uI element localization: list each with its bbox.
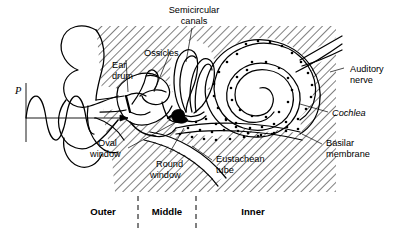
basilar-membrane-label-line2: membrane [326,149,370,159]
ear-anatomy-figure: P [0,0,403,236]
auditory-nerve-label-line1: Auditory [350,64,384,74]
round-window-label-line1: Round [156,159,183,169]
round-window-label-line2: window [149,170,181,180]
ear-drum-label-line1: Ear [112,60,126,70]
region-label-outer: Outer [90,206,116,217]
oval-window-label-line1: Oval [98,138,117,148]
region-label-inner: Inner [241,206,265,217]
eustachean-tube-label-line1: Eustachean [216,154,265,164]
region-label-middle: Middle [152,206,182,217]
basilar-membrane-label-line1: Basilar [326,138,354,148]
semicircular-canals-label-line1: Semicircular [169,5,220,15]
eustachean-tube-label-line2: tube [216,165,234,175]
semicircular-canals-label-line2: canals [181,16,208,26]
cochlea-label: Cochlea [332,108,366,118]
pressure-symbol-label: P [14,85,22,96]
ear-diagram-canvas: P [0,0,403,236]
auditory-nerve-label-line2: nerve [350,75,373,85]
oval-window-label-line2: window [89,149,121,159]
ossicles-label: Ossicles [144,48,179,58]
ear-drum-label-line2: drum [112,71,133,81]
